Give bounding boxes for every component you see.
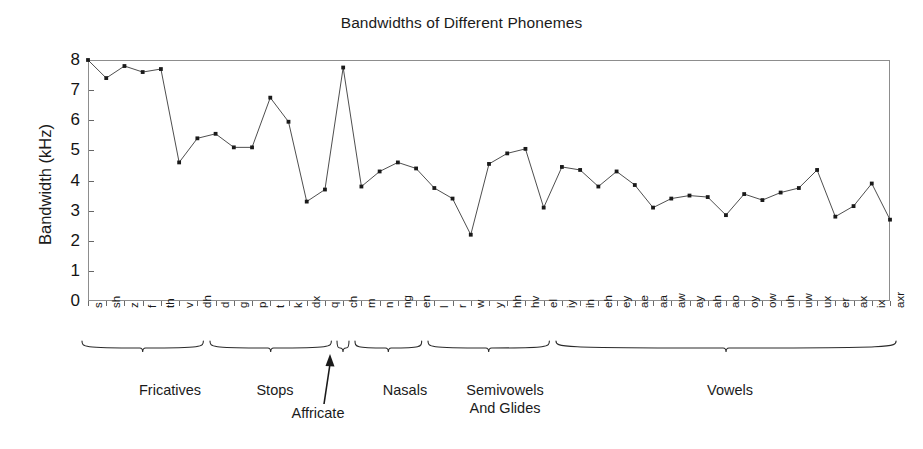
x-axis-tick-mark bbox=[434, 301, 435, 306]
x-axis-tick-mark bbox=[289, 301, 290, 306]
x-axis-tick-label: en bbox=[421, 295, 433, 308]
x-axis-tick-label: ao bbox=[730, 295, 742, 308]
x-axis-tick-mark bbox=[234, 301, 235, 306]
x-axis-tick-label: l bbox=[439, 305, 451, 308]
x-axis-tick-mark bbox=[525, 301, 526, 306]
x-axis-tick-label: ah bbox=[712, 295, 724, 308]
chart-figure: Bandwidths of Different Phonemes Bandwid… bbox=[0, 0, 923, 449]
x-axis-tick-mark bbox=[361, 301, 362, 306]
x-axis-tick-label: sh bbox=[111, 296, 123, 308]
x-axis-tick-mark bbox=[544, 301, 545, 306]
x-axis-tick-mark bbox=[817, 301, 818, 306]
x-axis-tick-mark bbox=[799, 301, 800, 306]
x-axis-tick-label: uw bbox=[803, 293, 815, 308]
x-axis-tick-mark bbox=[726, 301, 727, 306]
x-axis-tick-mark bbox=[854, 301, 855, 306]
x-axis-tick-mark bbox=[343, 301, 344, 306]
x-axis-tick-mark bbox=[216, 301, 217, 306]
x-axis-tick-label: el bbox=[548, 299, 560, 308]
x-axis-tick-label: hh bbox=[512, 295, 524, 308]
affricate-arrow-icon bbox=[300, 352, 340, 404]
x-axis-tick-label: dh bbox=[202, 295, 214, 308]
x-axis-tick-mark bbox=[635, 301, 636, 306]
x-axis-tick-label: ow bbox=[767, 293, 779, 308]
x-axis-tick-label: aa bbox=[658, 295, 670, 308]
x-axis-tick-mark bbox=[380, 301, 381, 306]
x-axis-tick-label: k bbox=[293, 302, 305, 308]
x-axis-tick-label: m bbox=[366, 298, 378, 308]
x-axis-tick-label: ng bbox=[402, 295, 414, 308]
x-axis-tick-mark bbox=[890, 301, 891, 306]
x-axis-tick-label: hv bbox=[530, 296, 542, 308]
x-axis-tick-mark bbox=[252, 301, 253, 306]
x-axis-tick-mark bbox=[671, 301, 672, 306]
x-axis-tick-label: er bbox=[840, 298, 852, 308]
x-axis-tick-label: axr bbox=[895, 292, 907, 308]
x-axis-tick-label: ih bbox=[585, 299, 597, 308]
x-axis-tick-mark bbox=[270, 301, 271, 306]
x-axis-tick-label: p bbox=[257, 302, 269, 308]
x-axis-tick-mark bbox=[124, 301, 125, 306]
x-axis-tick-label: ey bbox=[621, 296, 633, 308]
x-axis-tick-mark bbox=[197, 301, 198, 306]
x-axis-tick-mark bbox=[781, 301, 782, 306]
x-axis-tick-mark bbox=[835, 301, 836, 306]
x-axis-tick-label: iy bbox=[566, 300, 578, 308]
x-axis-tick-mark bbox=[307, 301, 308, 306]
x-axis-tick-label: uh bbox=[785, 295, 797, 308]
x-axis-tick-mark bbox=[88, 301, 89, 306]
group-brace bbox=[81, 340, 204, 353]
group-brace bbox=[427, 340, 550, 353]
affricate-group-label: Affricate bbox=[258, 405, 378, 421]
x-axis-tick-label: g bbox=[238, 302, 250, 308]
group-brace bbox=[354, 340, 423, 353]
x-axis-tick-label: s bbox=[93, 302, 105, 308]
x-axis-tick-label: eh bbox=[603, 295, 615, 308]
x-axis-tick-label: z bbox=[129, 302, 141, 308]
x-axis-tick-mark bbox=[179, 301, 180, 306]
x-axis-tick-label: dx bbox=[311, 296, 323, 308]
group-label-fricatives: Fricatives bbox=[95, 381, 245, 399]
x-axis-tick-label: r bbox=[457, 304, 469, 308]
x-axis-tick-mark bbox=[653, 301, 654, 306]
x-axis-tick-label: n bbox=[384, 302, 396, 308]
x-axis-tick-mark bbox=[453, 301, 454, 306]
x-axis-tick-label: oy bbox=[749, 296, 761, 308]
x-axis-tick-label: ux bbox=[822, 296, 834, 308]
x-axis-tick-label: ix bbox=[876, 300, 888, 308]
x-axis-tick-mark bbox=[471, 301, 472, 306]
group-brace bbox=[555, 340, 897, 353]
x-axis-tick-mark bbox=[398, 301, 399, 306]
x-axis-tick-label: w bbox=[475, 300, 487, 308]
x-axis-tick-label: ae bbox=[639, 295, 651, 308]
x-axis-tick-label: y bbox=[494, 302, 506, 308]
x-axis-tick-label: d bbox=[220, 302, 232, 308]
x-axis-tick-label: aw bbox=[676, 293, 688, 308]
x-axis-tick-label: v bbox=[184, 302, 196, 308]
x-axis-tick-mark bbox=[762, 301, 763, 306]
x-axis-tick-mark bbox=[598, 301, 599, 306]
x-axis-tick-label: ay bbox=[694, 296, 706, 308]
x-axis-tick-mark bbox=[143, 301, 144, 306]
x-axis-tick-mark bbox=[416, 301, 417, 306]
x-axis-tick-label: ax bbox=[858, 296, 870, 308]
x-axis-tick-mark bbox=[708, 301, 709, 306]
x-axis-tick-mark bbox=[580, 301, 581, 306]
x-axis-tick-mark bbox=[325, 301, 326, 306]
x-axis-tick-mark bbox=[161, 301, 162, 306]
x-axis-tick-mark bbox=[744, 301, 745, 306]
x-axis-tick-mark bbox=[562, 301, 563, 306]
x-axis-tick-mark bbox=[489, 301, 490, 306]
x-axis-tick-label: th bbox=[165, 298, 177, 308]
x-axis-tick-mark bbox=[617, 301, 618, 306]
x-axis-tick-label: q bbox=[329, 302, 341, 308]
group-label-semivowels-and-glides: Semivowels And Glides bbox=[430, 381, 580, 417]
group-label-vowels: Vowels bbox=[600, 381, 860, 399]
x-axis-tick-mark bbox=[690, 301, 691, 306]
x-axis-tick-label: f bbox=[147, 305, 159, 308]
x-axis-tick-mark bbox=[872, 301, 873, 306]
x-axis-tick-label: ch bbox=[348, 296, 360, 308]
x-axis-tick-label: t bbox=[275, 305, 287, 308]
x-axis-tick-mark bbox=[507, 301, 508, 306]
x-axis-tick-mark bbox=[106, 301, 107, 306]
